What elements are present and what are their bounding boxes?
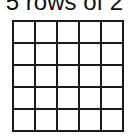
grid-cell: [58, 66, 80, 88]
grid-cell: [14, 44, 36, 66]
grid-cell: [14, 110, 36, 132]
grid-cell: [36, 66, 58, 88]
grid-cell: [102, 44, 124, 66]
grid-cell: [80, 66, 102, 88]
grid-cell: [80, 22, 102, 44]
grid-cell: [36, 22, 58, 44]
grid-cell: [14, 88, 36, 110]
grid-cell: [102, 66, 124, 88]
grid: [12, 20, 124, 132]
grid-cell: [80, 110, 102, 132]
diagram-title: 5 rows of 2: [0, 0, 129, 16]
grid-cell: [36, 110, 58, 132]
grid-cell: [14, 66, 36, 88]
grid-cell: [102, 22, 124, 44]
grid-cell: [80, 44, 102, 66]
grid-cell: [58, 44, 80, 66]
grid-cell: [58, 88, 80, 110]
grid-cell: [58, 22, 80, 44]
grid-cell: [36, 44, 58, 66]
grid-cell: [102, 88, 124, 110]
grid-cell: [58, 110, 80, 132]
grid-cell: [14, 22, 36, 44]
grid-cell: [80, 88, 102, 110]
grid-cell: [36, 88, 58, 110]
grid-cell: [102, 110, 124, 132]
